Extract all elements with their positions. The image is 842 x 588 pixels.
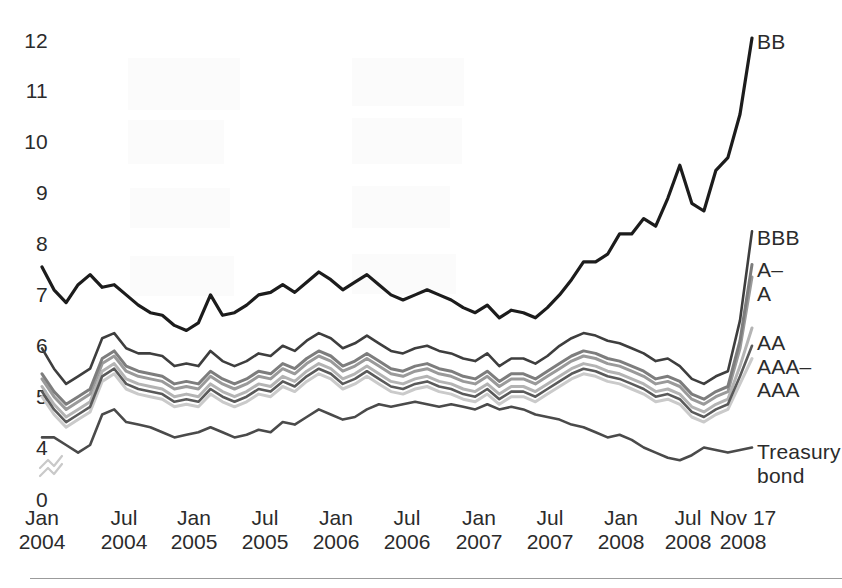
series-label-a-minus-text: A–: [757, 258, 783, 282]
y-axis-break-icon: [40, 456, 62, 476]
series-label-aaa-text: AAA: [757, 378, 800, 402]
plot-area: [0, 0, 842, 588]
chart-container: 12 11 10 9 8 7 6 5 4 0 Jan 2004 Jul 2004…: [0, 0, 842, 588]
series-label-treasury-line1: Treasury: [757, 440, 841, 464]
series-label-aa: AA: [757, 331, 785, 355]
x-tick-0-month: Jan: [0, 506, 85, 530]
x-tick-0-year: 2004: [0, 530, 85, 554]
series-label-a: A: [757, 282, 771, 306]
series-label-bb: BB: [757, 30, 785, 54]
series-label-aaa-minus: AAA–: [757, 355, 812, 379]
x-tick-0: Jan 2004: [0, 506, 85, 554]
series-label-treasury-line2: bond: [757, 464, 841, 488]
series-label-a-minus: A–: [757, 258, 783, 282]
x-tick-10: Nov 17 2008: [700, 506, 786, 554]
series-label-bbb: BBB: [757, 226, 800, 250]
series-label-treasury: Treasury bond: [757, 440, 841, 488]
series-label-aaa-minus-text: AAA–: [757, 355, 812, 379]
footer-divider: [30, 578, 842, 579]
series-label-aa-text: AA: [757, 331, 785, 355]
series-label-aaa: AAA: [757, 378, 800, 402]
series-line-treasury: [42, 402, 752, 461]
series-line-bbb: [42, 231, 752, 384]
x-tick-10-year: 2008: [700, 530, 786, 554]
series-label-bb-text: BB: [757, 30, 785, 54]
series-label-a-text: A: [757, 282, 771, 306]
x-tick-10-month: Nov 17: [700, 506, 786, 530]
series-line-bb: [42, 38, 752, 331]
series-label-bbb-text: BBB: [757, 226, 800, 250]
